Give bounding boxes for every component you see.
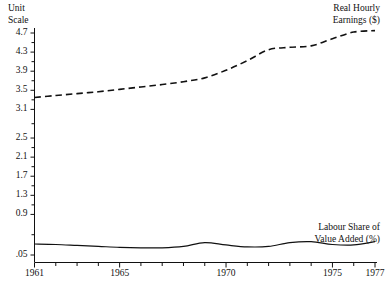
y-axis-tick-label: 3.9 — [2, 65, 28, 75]
y-axis-tick-label: 1.3 — [2, 189, 28, 199]
series-label-real-hourly-earnings: Real Hourly Earnings ($) — [333, 3, 380, 26]
series-label-labour-share: Labour Share of Value Added (%) — [315, 222, 380, 245]
series-line-real-hourly-earnings — [35, 31, 376, 98]
x-axis-tick-label: 1961 — [15, 268, 55, 278]
y-axis-tick-label: 3.5 — [2, 84, 28, 94]
y-axis-tick-label: .05 — [2, 249, 28, 259]
x-axis-tick-label: 1975 — [312, 268, 352, 278]
x-axis-tick-label: 1970 — [206, 268, 246, 278]
x-axis-ticks — [35, 263, 376, 268]
y-axis-tick-label: 4.3 — [2, 46, 28, 56]
y-axis-ticks — [31, 33, 35, 255]
y-axis-tick-label: 3.1 — [2, 103, 28, 113]
x-axis-tick-label: 1965 — [100, 268, 140, 278]
chart-series-group — [35, 31, 376, 248]
y-axis-tick-label: 0.9 — [2, 208, 28, 218]
y-axis-tick-label: 4.7 — [2, 27, 28, 37]
y-axis-tick-label: 1.7 — [2, 170, 28, 180]
x-axis-tick-label: 1977 — [355, 268, 389, 278]
chart-figure: Unit Scale 4.74.33.93.53.12.52.11.71.30.… — [0, 0, 389, 286]
y-axis-tick-label: 2.1 — [2, 151, 28, 161]
y-axis-tick-label: 2.5 — [2, 132, 28, 142]
